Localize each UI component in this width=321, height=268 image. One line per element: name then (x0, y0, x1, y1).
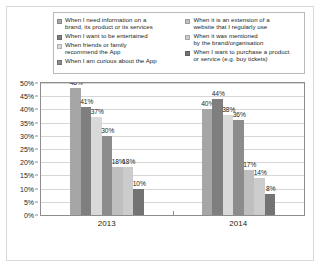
legend-swatch-icon (185, 35, 190, 40)
y-axis-tick-label: 5% (24, 198, 34, 205)
bar (123, 167, 134, 215)
legend-swatch-icon (185, 51, 190, 56)
legend-entry[interactable]: When I am curious about the App (57, 57, 185, 65)
plot-area: 48%41%37%30%18%18%10%40%44%38%36%17%14%8… (40, 82, 305, 216)
y-axis-tick-label: 10% (20, 185, 34, 192)
x-axis: 20132014 (40, 219, 305, 235)
bar-value-label: 30% (101, 127, 114, 134)
bar-value-label: 37% (91, 108, 104, 115)
y-axis-tick-mark (35, 201, 38, 202)
x-axis-group-separator (173, 211, 174, 215)
legend-entry-label: When I want to purchase a product or ser… (193, 48, 289, 63)
y-axis-tick-label: 15% (20, 172, 34, 179)
y-axis-tick-label: 40% (20, 106, 34, 113)
legend-entry[interactable]: When it is an extension of a website tha… (185, 16, 302, 31)
chart-legend: When I need information on a brand, its … (53, 12, 305, 74)
y-axis-tick-label: 20% (20, 159, 34, 166)
bar-value-label: 17% (243, 161, 256, 168)
legend-entry-label: When it is an extension of a website tha… (193, 16, 269, 31)
bar-value-label: 10% (133, 180, 146, 187)
legend-swatch-icon (185, 19, 190, 24)
bar (233, 120, 244, 215)
bar-value-label: 18% (122, 158, 135, 165)
y-axis-tick-mark (35, 162, 38, 163)
bar (70, 88, 81, 215)
legend-entry[interactable]: When I want to be entertained (57, 32, 185, 40)
bar (133, 189, 144, 215)
y-axis: 0%5%10%15%20%25%30%35%40%45%50% (6, 82, 38, 216)
x-axis-tick-label: 2014 (229, 219, 247, 228)
y-axis-tick-label: 50% (20, 80, 34, 87)
y-axis-tick-mark (35, 83, 38, 84)
y-axis-tick-label: 30% (20, 132, 34, 139)
y-axis-tick-mark (35, 215, 38, 216)
y-axis-tick-mark (35, 135, 38, 136)
bar (254, 178, 265, 215)
y-axis-tick-label: 0% (24, 212, 34, 219)
bar-value-label: 48% (70, 82, 83, 86)
legend-entry-label: When I need information on a brand, its … (65, 16, 153, 31)
bar (244, 170, 255, 215)
legend-swatch-icon (57, 60, 62, 65)
legend-entry[interactable]: When friends or family recommend the App (57, 41, 185, 56)
bars-layer: 48%41%37%30%18%18%10%40%44%38%36%17%14%8… (41, 83, 304, 215)
legend-entry-label: When it was mentioned by the brand/organ… (193, 32, 263, 47)
y-axis-tick-mark (35, 175, 38, 176)
legend-swatch-icon (57, 44, 62, 49)
bar (81, 107, 92, 215)
legend-column-right: When it is an extension of a website tha… (185, 16, 302, 71)
y-axis-tick-mark (35, 109, 38, 110)
y-axis-tick-mark (35, 149, 38, 150)
legend-entry-label: When I am curious about the App (65, 57, 157, 64)
bar-value-label: 14% (254, 169, 267, 176)
bar-value-label: 44% (212, 90, 225, 97)
bar (202, 109, 213, 215)
chart-figure: When I need information on a brand, its … (0, 0, 321, 268)
legend-swatch-icon (57, 35, 62, 40)
bar (112, 167, 123, 215)
legend-column-left: When I need information on a brand, its … (57, 16, 185, 71)
legend-entry[interactable]: When it was mentioned by the brand/organ… (185, 32, 302, 47)
legend-entry-label: When I want to be entertained (65, 32, 148, 39)
bar (102, 136, 113, 215)
y-axis-tick-mark (35, 96, 38, 97)
legend-swatch-icon (57, 19, 62, 24)
bar-value-label: 36% (233, 111, 246, 118)
y-axis-tick-mark (35, 188, 38, 189)
y-axis-tick-label: 35% (20, 119, 34, 126)
bar (223, 115, 234, 215)
bar-value-label: 41% (80, 98, 93, 105)
y-axis-tick-label: 45% (20, 93, 34, 100)
bar (212, 99, 223, 215)
bar (91, 117, 102, 215)
legend-entry-label: When friends or family recommend the App (65, 41, 127, 56)
y-axis-tick-label: 25% (20, 146, 34, 153)
bar (265, 194, 276, 215)
legend-entry[interactable]: When I need information on a brand, its … (57, 16, 185, 31)
bar-value-label: 8% (266, 185, 276, 192)
x-axis-tick-label: 2013 (98, 219, 116, 228)
legend-entry[interactable]: When I want to purchase a product or ser… (185, 48, 302, 63)
y-axis-tick-mark (35, 122, 38, 123)
